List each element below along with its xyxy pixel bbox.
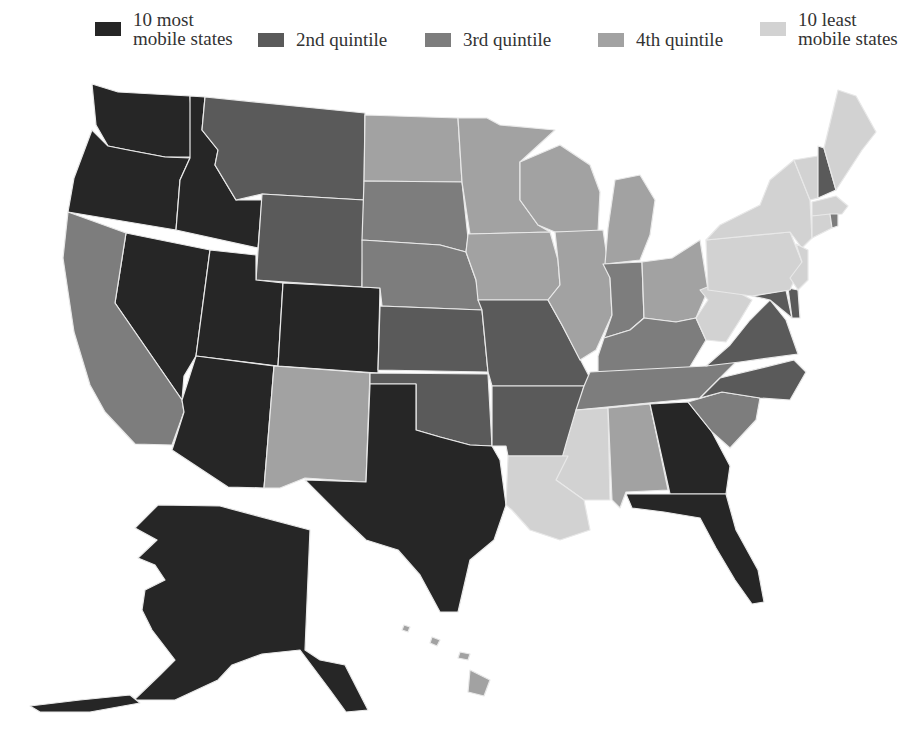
state-HI-kauai (402, 625, 410, 632)
state-ME (824, 90, 876, 190)
state-MT (202, 97, 365, 200)
state-PA (706, 232, 802, 296)
state-NY (706, 160, 812, 248)
state-HI (468, 670, 490, 696)
state-HI-oahu (430, 637, 440, 646)
state-MA (812, 196, 848, 216)
state-IA (466, 232, 560, 300)
state-FL (626, 494, 764, 604)
us-choropleth-map (0, 0, 924, 750)
state-ND (364, 115, 462, 182)
state-CO (278, 283, 380, 373)
state-AZ (172, 356, 274, 488)
state-NM (264, 366, 370, 488)
state-RI (830, 214, 838, 228)
state-KS (378, 306, 488, 372)
state-AK (134, 505, 368, 712)
state-MI (605, 175, 655, 264)
state-OH (642, 240, 708, 322)
state-HI-maui (458, 652, 470, 660)
state-CT (812, 214, 832, 238)
state-AK-islands (30, 695, 140, 712)
state-WY (256, 194, 364, 287)
